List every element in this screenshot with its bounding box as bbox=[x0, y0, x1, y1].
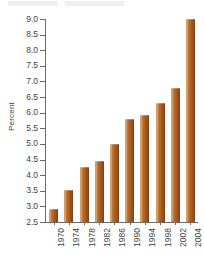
y-axis-tick-label-text: 4.5 bbox=[16, 155, 38, 164]
x-axis-tick bbox=[54, 222, 55, 225]
y-axis-tick-label-text: 5.5 bbox=[16, 124, 38, 133]
x-axis-tick bbox=[190, 222, 191, 225]
bar bbox=[49, 209, 58, 222]
x-axis-tick-label: 1978 bbox=[88, 228, 97, 259]
x-axis-tick bbox=[130, 222, 131, 225]
y-axis-tick bbox=[40, 19, 45, 20]
y-axis-tick bbox=[40, 144, 45, 145]
x-axis-tick bbox=[84, 222, 85, 225]
x-axis-tick-label: 1974 bbox=[72, 228, 81, 259]
x-axis-tick bbox=[69, 222, 70, 225]
x-axis-tick-label: 1990 bbox=[133, 228, 142, 259]
x-axis-tick-label: 1982 bbox=[103, 228, 112, 259]
y-axis-tick-label: 3.5 bbox=[13, 186, 38, 195]
x-axis-tick-label: 2004 bbox=[194, 228, 203, 259]
y-axis-tick bbox=[40, 81, 45, 82]
y-axis-tick-label-text: 8.5 bbox=[16, 30, 38, 39]
x-axis-tick bbox=[160, 222, 161, 225]
bar bbox=[186, 19, 195, 222]
y-axis-tick bbox=[40, 191, 45, 192]
bar bbox=[156, 103, 165, 222]
y-axis-tick-label: 6.0 bbox=[13, 108, 38, 117]
y-axis-tick bbox=[40, 160, 45, 161]
bar bbox=[140, 115, 149, 222]
y-axis-tick-label-text: 2.5 bbox=[16, 218, 38, 227]
y-axis-tick bbox=[40, 66, 45, 67]
y-axis-tick-label-text: 6.5 bbox=[16, 93, 38, 102]
y-axis-tick bbox=[40, 97, 45, 98]
y-axis-tick-label: 7.0 bbox=[13, 77, 38, 86]
y-axis-tick bbox=[40, 113, 45, 114]
y-axis-tick-label: 9.0 bbox=[13, 15, 38, 24]
y-axis-tick bbox=[40, 128, 45, 129]
bar bbox=[80, 167, 89, 222]
y-axis-tick bbox=[40, 206, 45, 207]
y-axis-tick-label: 8.5 bbox=[13, 30, 38, 39]
y-axis-tick-label-text: 7.0 bbox=[16, 77, 38, 86]
x-axis-tick-label: 1998 bbox=[164, 228, 173, 259]
y-axis-tick-label: 5.5 bbox=[13, 124, 38, 133]
y-axis-tick bbox=[40, 175, 45, 176]
y-axis-tick-label: 7.5 bbox=[13, 61, 38, 70]
y-axis-tick-label-text: 9.0 bbox=[16, 15, 38, 24]
bar bbox=[64, 190, 73, 222]
bar bbox=[95, 161, 104, 222]
y-axis-tick-label: 8.0 bbox=[13, 46, 38, 55]
bar bbox=[171, 88, 180, 222]
y-axis-tick bbox=[40, 50, 45, 51]
x-axis-tick-label: 1994 bbox=[148, 228, 157, 259]
bar bbox=[125, 119, 134, 222]
x-axis-tick bbox=[114, 222, 115, 225]
x-axis-tick-label: 1986 bbox=[118, 228, 127, 259]
y-axis-tick-label-text: 8.0 bbox=[16, 46, 38, 55]
x-axis-tick bbox=[145, 222, 146, 225]
y-axis-tick bbox=[40, 222, 45, 223]
bar-chart-figure: Percent 2.53.03.54.04.55.05.56.06.57.07.… bbox=[0, 0, 204, 259]
x-axis-tick bbox=[99, 222, 100, 225]
x-axis-tick-label: 2002 bbox=[179, 228, 188, 259]
y-axis-tick-label-text: 3.5 bbox=[16, 186, 38, 195]
y-axis-tick-label: 6.5 bbox=[13, 93, 38, 102]
plot-area bbox=[46, 19, 198, 222]
y-axis-tick-label: 4.5 bbox=[13, 155, 38, 164]
y-axis-tick-label-text: 3.0 bbox=[16, 202, 38, 211]
x-axis-tick bbox=[175, 222, 176, 225]
x-axis-tick-label: 1970 bbox=[57, 228, 66, 259]
bar bbox=[110, 144, 119, 222]
y-axis-tick-label: 5.0 bbox=[13, 139, 38, 148]
y-axis-tick-label-text: 6.0 bbox=[16, 108, 38, 117]
y-axis-tick-label-text: 5.0 bbox=[16, 139, 38, 148]
y-axis-tick-label: 3.0 bbox=[13, 202, 38, 211]
y-axis-tick bbox=[40, 35, 45, 36]
y-axis-tick-label: 4.0 bbox=[13, 171, 38, 180]
page-crop-artifact bbox=[8, 1, 194, 6]
y-axis-tick-label-text: 7.5 bbox=[16, 61, 38, 70]
y-axis-tick-label-text: 4.0 bbox=[16, 171, 38, 180]
y-axis-tick-label: 2.5 bbox=[13, 218, 38, 227]
